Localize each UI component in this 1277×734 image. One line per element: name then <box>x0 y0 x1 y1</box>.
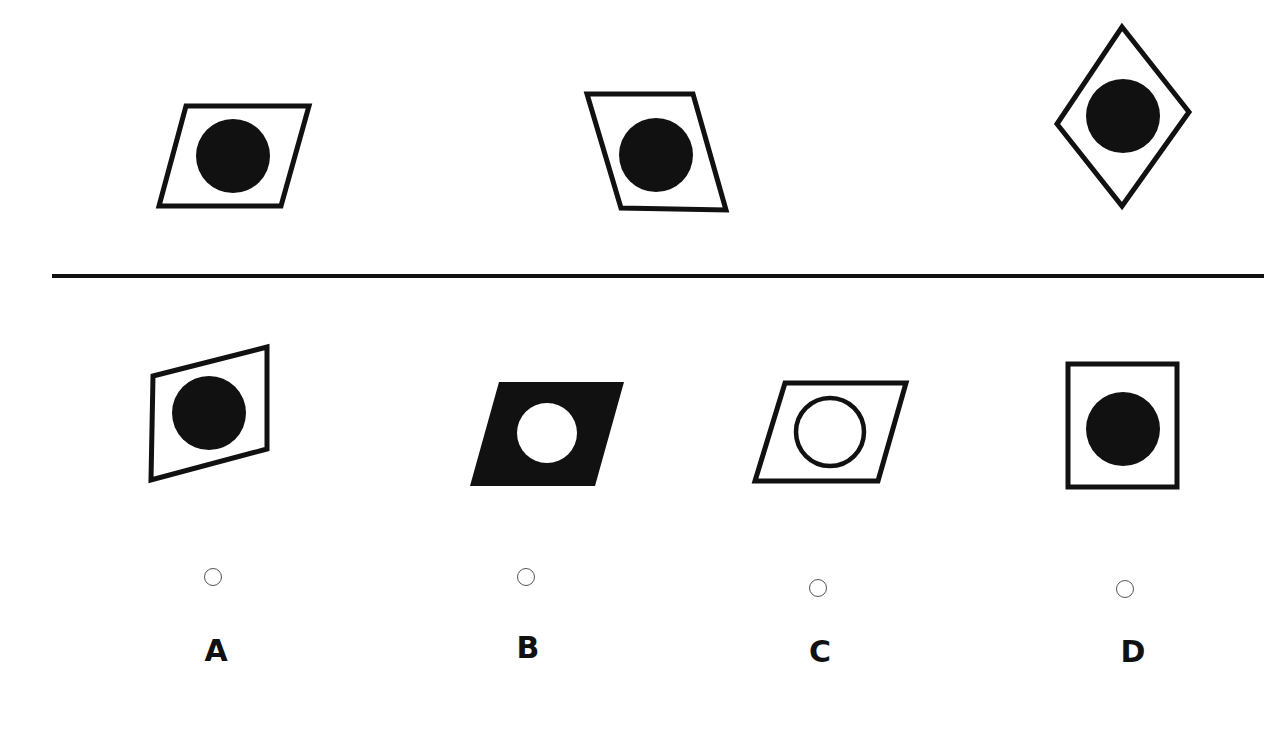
option-d-figure[interactable] <box>1068 364 1177 487</box>
option-a-figure[interactable] <box>151 347 267 480</box>
option-b-figure[interactable] <box>470 382 624 486</box>
option-a-radio[interactable] <box>204 568 222 586</box>
question-figure-3 <box>1057 27 1189 206</box>
filled-circle-icon <box>172 376 246 450</box>
option-c-label: C <box>800 637 840 667</box>
hollow-circle-icon <box>796 398 864 466</box>
filled-circle-icon <box>1086 79 1160 153</box>
option-d-radio[interactable] <box>1116 580 1134 598</box>
filled-circle-icon <box>1086 392 1160 466</box>
option-a-label: A <box>196 636 236 666</box>
option-b-radio[interactable] <box>517 568 535 586</box>
white-circle-icon <box>517 403 577 463</box>
filled-circle-icon <box>196 119 270 193</box>
option-c-radio[interactable] <box>809 579 827 597</box>
option-b-label: B <box>508 633 548 663</box>
option-c-figure[interactable] <box>755 383 906 481</box>
question-figure-1 <box>159 106 309 206</box>
puzzle-figures <box>0 0 1277 734</box>
option-d-label: D <box>1113 637 1153 667</box>
question-figure-2 <box>587 94 726 210</box>
filled-circle-icon <box>619 118 693 192</box>
puzzle-stage: A B C D <box>0 0 1277 734</box>
